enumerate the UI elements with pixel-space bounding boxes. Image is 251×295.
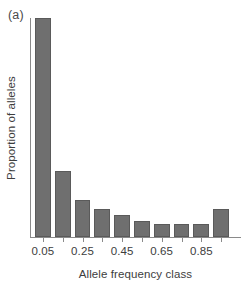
x-axis-tick xyxy=(142,237,143,242)
x-axis-tick xyxy=(221,237,222,242)
x-axis-tick xyxy=(201,237,202,242)
x-axis-ticks xyxy=(30,237,241,243)
x-axis-tick-label: 0.45 xyxy=(111,245,134,257)
bar xyxy=(55,171,71,237)
x-axis-tick xyxy=(102,237,103,242)
bar-series xyxy=(30,18,241,237)
x-axis-tick xyxy=(83,237,84,242)
x-axis-tick-label: 0.05 xyxy=(31,245,54,257)
x-axis-tick xyxy=(43,237,44,242)
y-axis-title: Proportion of alleles xyxy=(5,76,17,180)
bar xyxy=(134,221,150,237)
x-axis-tick-labels: 0.050.250.450.650.85 xyxy=(30,245,241,261)
bar xyxy=(154,224,170,237)
x-axis-title: Allele frequency class xyxy=(30,268,241,280)
x-axis-tick xyxy=(122,237,123,242)
y-axis-title-container: Proportion of alleles xyxy=(0,18,22,237)
x-axis-tick xyxy=(162,237,163,242)
bar xyxy=(35,18,51,237)
x-axis-tick-label: 0.85 xyxy=(190,245,213,257)
bar xyxy=(75,200,91,237)
x-axis-tick-label: 0.65 xyxy=(150,245,173,257)
bar xyxy=(193,224,209,237)
plot-area xyxy=(30,18,241,237)
bar xyxy=(174,224,190,237)
x-axis-tick-label: 0.25 xyxy=(71,245,94,257)
x-axis-tick xyxy=(182,237,183,242)
bar xyxy=(114,215,130,237)
bar xyxy=(94,209,110,237)
x-axis-tick xyxy=(63,237,64,242)
figure-panel: (a) Proportion of alleles 0.050.250.450.… xyxy=(0,0,251,295)
bar xyxy=(213,209,229,237)
